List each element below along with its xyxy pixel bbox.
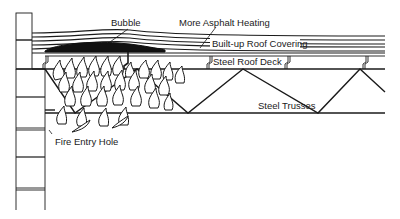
label-fire-entry-hole: Fire Entry Hole: [55, 136, 118, 147]
masonry-wall: [16, 13, 45, 210]
label-steel-trusses: Steel Trusses: [258, 100, 316, 111]
label-bubble: Bubble: [111, 17, 141, 28]
label-built-up-roof-covering: Built-up Roof Covering: [212, 38, 308, 49]
label-steel-roof-deck: Steel Roof Deck: [213, 56, 282, 67]
label-more-asphalt-heating: More Asphalt Heating: [179, 17, 270, 28]
flames: [53, 56, 184, 132]
roof-fire-diagram: Bubble More Asphalt Heating Built-up Roo…: [0, 0, 400, 219]
